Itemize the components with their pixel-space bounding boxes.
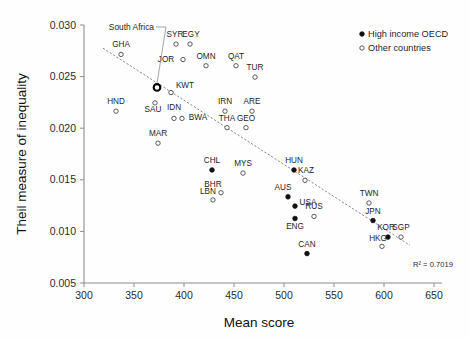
point-label-egy: EGY <box>182 30 200 39</box>
data-point-sgp[interactable] <box>399 235 403 239</box>
point-label-omn: OMN <box>196 52 215 61</box>
data-point-bhr[interactable] <box>219 191 223 195</box>
data-point-hkg[interactable] <box>380 244 384 248</box>
point-label-bwa: BWA <box>189 113 208 122</box>
point-label-aus: AUS <box>275 183 292 192</box>
data-point-lbn[interactable] <box>211 198 215 202</box>
x-tick-label: 350 <box>125 289 143 301</box>
x-tick-label: 400 <box>175 289 193 301</box>
data-point-usa[interactable] <box>293 204 298 209</box>
x-tick-label: 550 <box>325 289 343 301</box>
point-label-syr: SYR <box>167 30 184 39</box>
point-label-eng: ENG <box>286 222 304 231</box>
point-label-jpn: JPN <box>365 207 381 216</box>
data-point-jor[interactable] <box>181 57 185 61</box>
point-label-mar: MAR <box>149 129 167 138</box>
legend-marker-other-countries <box>360 46 364 50</box>
x-tick-label: 450 <box>225 289 243 301</box>
x-tick-label: 300 <box>75 289 93 301</box>
y-tick-label: 0.015 <box>50 173 76 185</box>
legend-marker-high-income-oecd <box>360 32 365 37</box>
data-point-rus[interactable] <box>312 214 316 218</box>
legend-label-other-countries: Other countries <box>368 43 431 53</box>
point-label-rus: RUS <box>305 202 323 211</box>
point-label-hun: HUN <box>285 156 303 165</box>
point-label-qat: QAT <box>228 52 244 61</box>
point-label-sau: SAU <box>145 105 162 114</box>
data-point-twn[interactable] <box>367 201 371 205</box>
data-point-syr[interactable] <box>174 42 178 46</box>
point-label-gha: GHA <box>112 40 130 49</box>
x-axis-title: Mean score <box>224 315 295 330</box>
point-label-twn: TWN <box>360 189 379 198</box>
point-label-lbn: LBN <box>200 187 216 196</box>
point-label-hkg: HKG <box>369 234 387 243</box>
x-tick-label: 600 <box>375 289 393 301</box>
point-label-irn: IRN <box>218 97 232 106</box>
point-label-kwt: KWT <box>176 81 194 90</box>
point-label-chl: CHL <box>204 156 221 165</box>
data-point-hnd[interactable] <box>114 109 118 113</box>
x-tick-label: 500 <box>275 289 293 301</box>
data-point-egy[interactable] <box>188 42 192 46</box>
callout-label-south-africa: South Africa <box>109 22 155 32</box>
legend-label-high-income-oecd: High income OECD <box>368 29 449 39</box>
y-axis-title: Theil measure of inequality <box>14 73 29 235</box>
data-point-idn[interactable] <box>172 116 176 120</box>
y-tick-label: 0.030 <box>50 19 76 31</box>
point-label-tur: TUR <box>247 63 264 72</box>
x-tick-label: 650 <box>425 289 443 301</box>
point-label-are: ARE <box>244 97 261 106</box>
point-label-tha: THA <box>219 114 236 123</box>
data-point-tha[interactable] <box>225 125 229 129</box>
y-tick-label: 0.005 <box>50 277 76 289</box>
point-label-mys: MYS <box>234 159 252 168</box>
scatter-plot: 0.0050.0100.0150.0200.0250.0303003504004… <box>0 0 470 338</box>
data-point-jpn[interactable] <box>371 218 376 223</box>
data-point-eng[interactable] <box>293 216 298 221</box>
data-point-mys[interactable] <box>241 171 245 175</box>
data-point-qat[interactable] <box>234 64 238 68</box>
data-point-aus[interactable] <box>286 195 291 200</box>
point-label-sgp: SGP <box>392 223 410 232</box>
y-tick-label: 0.010 <box>50 225 76 237</box>
data-point-can[interactable] <box>305 251 310 256</box>
data-point-mar[interactable] <box>156 141 160 145</box>
y-tick-label: 0.020 <box>50 122 76 134</box>
data-point-hun[interactable] <box>292 168 297 173</box>
point-label-kaz: KAZ <box>298 166 314 175</box>
data-point-kaz[interactable] <box>303 178 307 182</box>
point-label-idn: IDN <box>167 103 181 112</box>
data-point-chl[interactable] <box>210 168 215 173</box>
r-squared-annotation: R² = 0.7019 <box>413 260 453 269</box>
point-label-can: CAN <box>298 240 315 249</box>
chart-figure: 0.0050.0100.0150.0200.0250.0303003504004… <box>0 0 470 338</box>
data-point-bwa[interactable] <box>180 116 184 120</box>
data-point-geo[interactable] <box>244 125 248 129</box>
point-label-geo: GEO <box>237 114 255 123</box>
data-point-tur[interactable] <box>253 75 257 79</box>
data-point-omn[interactable] <box>204 64 208 68</box>
point-label-hnd: HND <box>107 97 125 106</box>
data-point-kwt[interactable] <box>169 90 173 94</box>
data-point-gha[interactable] <box>119 52 123 56</box>
y-tick-label: 0.025 <box>50 70 76 82</box>
data-point-south-africa[interactable] <box>154 84 161 91</box>
